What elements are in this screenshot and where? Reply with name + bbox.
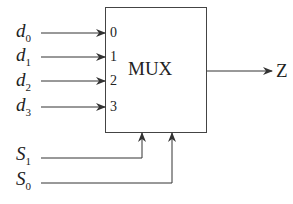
port-label-0: 0 [110, 25, 117, 41]
input-label-d0: d0 [16, 20, 31, 44]
select-label-s0: S0 [16, 168, 31, 192]
select-label-s1: S1 [16, 143, 31, 167]
mux-diagram-lines [0, 0, 293, 204]
output-label-z: Z [276, 60, 288, 82]
mux-label: MUX [128, 58, 172, 80]
port-label-1: 1 [110, 49, 117, 65]
input-label-d3: d3 [16, 94, 31, 118]
select-wire-s1 [41, 133, 142, 158]
input-label-d1: d1 [16, 44, 31, 68]
port-label-2: 2 [110, 73, 117, 89]
input-label-d2: d2 [16, 69, 31, 93]
port-label-3: 3 [110, 99, 117, 115]
